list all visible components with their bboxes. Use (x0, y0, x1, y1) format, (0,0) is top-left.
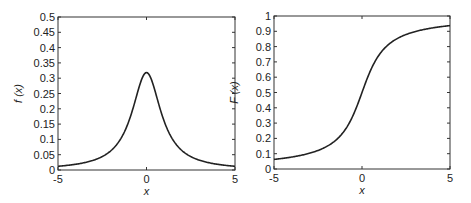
y-tick-label: 0.4 (256, 102, 271, 114)
x-tick-label: 0 (359, 172, 365, 184)
x-axis-label: x (143, 185, 150, 197)
x-tick-label: 5 (232, 173, 238, 185)
chart-canvas: 00.050.10.150.20.250.30.350.40.450.5-505… (0, 0, 471, 203)
figure: 00.050.10.150.20.250.30.350.40.450.5-505… (0, 0, 471, 203)
y-tick-label: 0.3 (256, 117, 271, 129)
y-tick-label: 0.15 (34, 118, 55, 130)
pdf-panel: 00.050.10.150.20.250.30.350.40.450.5-505… (12, 11, 238, 197)
y-tick-label: 0.5 (40, 11, 55, 23)
y-tick-label: 0.1 (40, 133, 55, 145)
pdf-curve (58, 73, 235, 167)
y-tick-label: 0.8 (256, 41, 271, 53)
x-tick-label: -5 (53, 173, 63, 185)
y-tick-label: 0.6 (256, 71, 271, 83)
y-tick-label: 0.4 (40, 42, 55, 54)
y-tick-label: 0.2 (40, 103, 55, 115)
x-tick-label: -5 (269, 172, 279, 184)
y-tick-label: 0.9 (256, 25, 271, 37)
x-tick-label: 0 (143, 173, 149, 185)
y-tick-label: 0.2 (256, 132, 271, 144)
y-axis-label: F (x) (228, 81, 240, 104)
y-tick-label: 0.7 (256, 56, 271, 68)
y-tick-label: 0.45 (34, 26, 55, 38)
y-tick-label: 0.35 (34, 57, 55, 69)
cdf-panel: 00.10.20.30.40.50.60.70.80.91-505xF (x) (228, 10, 453, 196)
y-tick-label: 1 (265, 10, 271, 22)
y-tick-label: 0.1 (256, 148, 271, 160)
axes-box (58, 17, 235, 170)
y-tick-label: 0.05 (34, 149, 55, 161)
cdf-curve (274, 26, 450, 160)
y-tick-label: 0.5 (256, 87, 271, 99)
y-tick-label: 0.3 (40, 72, 55, 84)
x-tick-label: 5 (447, 172, 453, 184)
x-axis-label: x (358, 184, 365, 196)
y-axis-label: f (x) (12, 84, 24, 103)
y-tick-label: 0.25 (34, 88, 55, 100)
